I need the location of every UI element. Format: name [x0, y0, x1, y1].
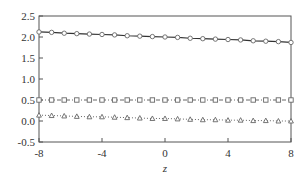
y-tick-label: -0.5: [18, 136, 36, 148]
data-point-triangle: [175, 116, 180, 121]
data-point-circle: [238, 38, 242, 42]
data-point-circle: [125, 34, 129, 38]
data-point-circle: [112, 33, 116, 37]
data-point-square: [226, 98, 230, 102]
x-tick-label: 4: [225, 147, 231, 159]
data-point-circle: [213, 37, 217, 41]
data-point-square: [87, 98, 91, 102]
data-point-square: [251, 98, 255, 102]
data-point-circle: [289, 40, 293, 44]
data-point-square: [289, 98, 293, 102]
data-point-square: [49, 98, 53, 102]
data-point-triangle: [37, 113, 42, 118]
data-point-square: [112, 98, 116, 102]
data-point-square: [163, 98, 167, 102]
data-point-triangle: [289, 119, 294, 124]
data-point-triangle: [263, 118, 268, 123]
data-point-circle: [175, 35, 179, 39]
data-point-square: [150, 98, 154, 102]
data-point-square: [276, 98, 280, 102]
data-point-circle: [100, 32, 104, 36]
data-point-square: [75, 98, 79, 102]
data-point-triangle: [112, 115, 117, 120]
data-point-triangle: [200, 117, 205, 122]
data-point-square: [264, 98, 268, 102]
data-point-circle: [49, 30, 53, 34]
series-circle: [37, 30, 293, 45]
data-point-circle: [75, 31, 79, 35]
data-point-square: [201, 98, 205, 102]
data-point-triangle: [238, 118, 243, 123]
data-point-triangle: [49, 113, 54, 118]
data-point-square: [125, 98, 129, 102]
x-tick-label: -8: [34, 147, 44, 159]
data-point-circle: [226, 37, 230, 41]
data-point-square: [37, 98, 41, 102]
data-point-triangle: [74, 114, 79, 119]
data-point-circle: [150, 34, 154, 38]
data-point-square: [213, 98, 217, 102]
y-tick-label: 1.0: [21, 73, 35, 85]
data-point-circle: [201, 36, 205, 40]
data-point-circle: [37, 30, 41, 34]
data-point-square: [188, 98, 192, 102]
data-point-square: [138, 98, 142, 102]
data-point-circle: [251, 39, 255, 43]
data-point-triangle: [137, 116, 142, 121]
data-point-circle: [62, 31, 66, 35]
data-point-circle: [276, 39, 280, 43]
data-point-triangle: [150, 116, 155, 121]
series-square: [37, 98, 293, 102]
data-point-triangle: [251, 118, 256, 123]
data-point-circle: [264, 39, 268, 43]
data-point-square: [100, 98, 104, 102]
data-point-triangle: [100, 114, 105, 119]
y-tick-label: 2.0: [21, 31, 35, 43]
x-tick-label: -4: [97, 147, 107, 159]
y-tick-label: 0.5: [21, 94, 35, 106]
data-point-circle: [87, 32, 91, 36]
data-point-square: [62, 98, 66, 102]
data-point-triangle: [62, 113, 67, 118]
data-point-triangle: [276, 119, 281, 124]
data-point-triangle: [125, 115, 130, 120]
data-point-triangle: [226, 118, 231, 123]
line-chart: -0.50.00.51.01.52.02.5 -8-4048 z: [0, 0, 307, 178]
data-point-triangle: [87, 114, 92, 119]
x-tick-label: 0: [162, 147, 168, 159]
data-point-triangle: [188, 117, 193, 122]
data-point-square: [175, 98, 179, 102]
y-tick-label: 1.5: [21, 52, 35, 64]
data-point-triangle: [213, 117, 218, 122]
y-tick-label: 0.0: [21, 115, 35, 127]
x-axis-label: z: [162, 162, 168, 174]
data-point-circle: [163, 35, 167, 39]
x-axis: -8-4048: [34, 138, 294, 159]
y-tick-label: 2.5: [21, 10, 35, 22]
series-layer: [37, 30, 294, 123]
series-triangle: [37, 113, 294, 123]
data-point-triangle: [163, 116, 168, 121]
data-point-square: [238, 98, 242, 102]
data-point-circle: [188, 36, 192, 40]
x-tick-label: 8: [288, 147, 294, 159]
data-point-circle: [138, 34, 142, 38]
